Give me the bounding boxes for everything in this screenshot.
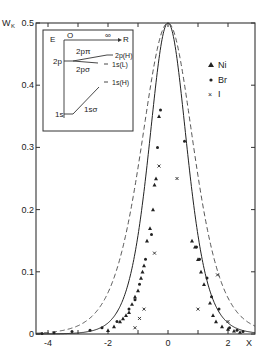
point-br	[128, 308, 131, 311]
point-ni	[139, 276, 143, 280]
point-ni	[238, 330, 242, 334]
point-br	[150, 233, 153, 236]
point-br	[53, 331, 56, 334]
x-tick-label: -2	[104, 338, 112, 348]
point-ni	[133, 295, 137, 299]
point-ni	[154, 177, 158, 181]
legend-i: I	[218, 89, 221, 99]
point-ni	[220, 325, 224, 329]
level-2p-label: 2p	[53, 57, 62, 66]
point-br	[134, 298, 137, 301]
point-ni	[199, 270, 203, 274]
y-tick-label: 0	[29, 329, 34, 339]
x-tick-label: -4	[44, 338, 52, 348]
inset-infinity-label: ∞	[105, 31, 111, 40]
orbital-2p-sigma-label: 2pσ	[76, 65, 90, 74]
x-axis-label: X	[246, 338, 252, 348]
point-ni	[127, 310, 131, 314]
point-br	[144, 258, 147, 261]
point-br	[210, 295, 213, 298]
point-br	[71, 330, 74, 333]
point-i	[197, 308, 200, 311]
point-br	[138, 283, 141, 286]
point-i	[158, 165, 161, 168]
point-br	[206, 277, 209, 280]
point-br	[101, 326, 104, 329]
point-ni	[136, 288, 140, 292]
level-2p-h-label: 2p(H)	[115, 52, 133, 60]
point-i	[176, 177, 179, 180]
inset-diagram: E O ∞ R 2p 2pπ 2pσ 2p(H) 1s(L) 1s(H) 1s …	[43, 30, 133, 131]
point-i	[138, 317, 141, 320]
y-tick-label: 0.5	[21, 18, 34, 28]
point-ni	[190, 239, 194, 243]
legend-ni: Ni	[218, 60, 227, 70]
point-ni	[106, 328, 110, 332]
point-ni	[148, 226, 152, 230]
y-axis-label-subscript: K	[11, 23, 15, 29]
point-br	[183, 140, 186, 143]
point-ni	[130, 302, 134, 306]
point-br	[218, 308, 221, 311]
point-ni	[153, 183, 157, 187]
point-ni	[151, 208, 155, 212]
point-br	[116, 320, 119, 323]
y-tick-label: 0.4	[21, 80, 34, 90]
legend: Ni Br × I	[208, 60, 227, 99]
x-tick-label: 0	[165, 338, 170, 348]
point-br	[89, 329, 92, 332]
legend-cross-icon: ×	[208, 91, 212, 98]
point-br	[156, 146, 159, 149]
figure: 00.10.20.30.40.5 -4-202 W K X Ni Br × I …	[0, 0, 267, 363]
x-tick-label: 2	[225, 338, 230, 348]
point-br	[228, 326, 231, 329]
legend-triangle-icon	[208, 62, 214, 67]
point-i	[153, 252, 156, 255]
point-ni	[202, 282, 206, 286]
point-i	[134, 326, 137, 329]
point-ni	[142, 264, 146, 268]
legend-dot-icon	[209, 78, 212, 81]
point-ni	[157, 114, 161, 118]
point-ni	[145, 239, 149, 243]
point-br	[242, 330, 245, 333]
level-1s-l-label: 1s(L)	[112, 61, 128, 69]
y-tick-label: 0.2	[21, 205, 34, 215]
point-i	[143, 308, 146, 311]
point-ni	[208, 301, 212, 305]
point-ni	[214, 320, 218, 324]
orbital-2p-pi-label: 2pπ	[76, 47, 91, 56]
point-ni	[211, 313, 215, 317]
orbital-1s-sigma-label: 1sσ	[84, 105, 97, 114]
point-br	[236, 329, 239, 332]
point-br	[41, 332, 44, 335]
inset-origin-label: O	[67, 31, 73, 40]
point-br	[159, 109, 162, 112]
level-1s-label: 1s	[55, 110, 63, 119]
point-ni	[141, 270, 145, 274]
inset-e-label: E	[50, 35, 55, 44]
inset-r-label: R	[123, 35, 129, 44]
legend-br: Br	[218, 75, 227, 85]
y-tick-label: 0.3	[21, 142, 34, 152]
point-br	[198, 258, 201, 261]
point-ni	[232, 329, 236, 333]
y-axis-label: W	[2, 18, 11, 28]
y-tick-label: 0.1	[21, 267, 34, 277]
point-ni	[112, 325, 116, 329]
level-1s-h-label: 1s(H)	[112, 79, 129, 87]
point-br	[195, 245, 198, 248]
